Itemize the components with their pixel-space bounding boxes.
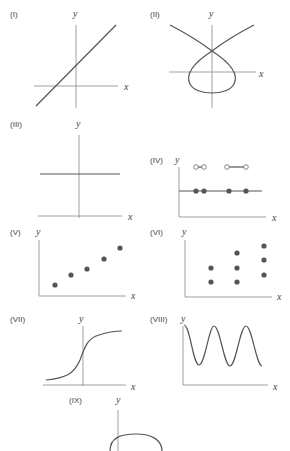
y-axis-label: y [75,118,81,129]
data-point [208,265,213,270]
graph-label: (VII) [10,315,25,324]
y-axis-label: y [78,313,84,324]
x-axis-label: x [130,381,136,392]
data-point [84,266,89,271]
y-axis-label: y [72,8,78,19]
y-axis-label: y [174,154,180,165]
graph-label: (III) [10,120,22,129]
data-point [261,257,266,262]
open-dot [202,165,207,170]
data-point [68,272,73,277]
graph-VII: (VII) y x [10,313,136,392]
filled-dot [193,188,198,193]
graph-label: (VI) [150,228,163,237]
x-axis-label: x [271,212,277,223]
x-axis-label: x [127,211,133,222]
filled-dot [226,188,231,193]
graph-V: (V) y x [10,226,136,301]
filled-dot [243,188,248,193]
data-point [234,279,239,284]
graph-IV: (IV) y x [150,154,277,223]
data-point [52,282,57,287]
data-point [234,265,239,270]
data-point [101,256,106,261]
open-dot [194,165,199,170]
data-point [208,279,213,284]
y-axis-label: y [35,226,41,237]
data-point [117,245,122,250]
data-point [234,250,239,255]
graph-label: (VIII) [150,315,168,324]
graph-label: (IV) [150,156,163,165]
y-axis-label: y [180,313,186,324]
sine-wave [184,325,262,366]
graph-VI: (VI) y x [150,226,282,302]
y-axis-label: y [181,226,187,237]
x-axis-label: x [123,81,129,92]
x-axis-label: x [272,381,278,392]
graph-III: (III) y x [10,118,133,222]
y-axis-label: y [208,8,214,19]
graph-label: (II) [150,10,160,19]
graph-II: (II) y x [150,8,264,108]
graph-IX: (IX) y [69,394,162,451]
filled-dot [201,188,206,193]
sigmoid-curve [46,331,122,380]
open-dot [244,165,249,170]
graphs-diagram: (I) y x (II) y x (III) y x (IV) y x [0,0,290,451]
graph-label: (IX) [69,396,82,405]
x-axis-label: x [130,290,136,301]
graph-I: (I) y x [10,8,129,108]
open-dot [225,165,230,170]
x-axis-label: x [276,291,282,302]
x-axis-label: x [258,68,264,79]
data-point [261,243,266,248]
graph-label: (I) [10,10,18,19]
y-axis-label: y [115,394,121,405]
graph-VIII: (VIII) y x [150,313,278,392]
data-point [261,272,266,277]
graph-label: (V) [10,228,21,237]
